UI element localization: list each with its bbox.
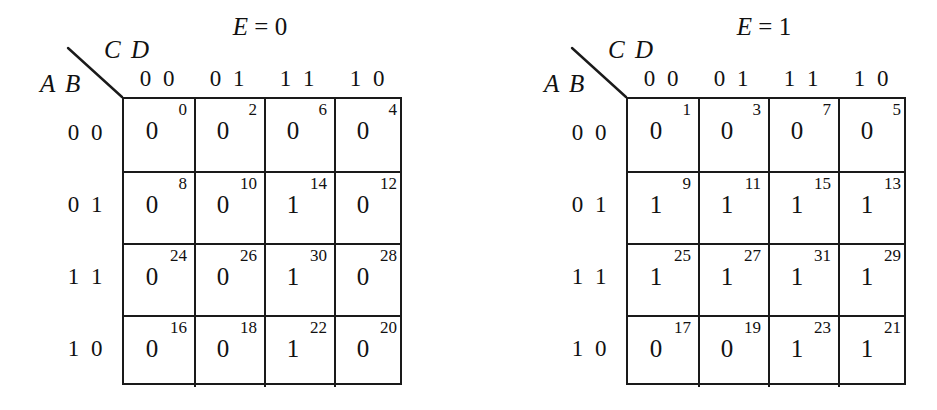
kmap-e1-grid-row-0: 1 0 3 0 7 0 5 0 [628,99,904,171]
kmap-e1-cell-15[interactable]: 15 1 [768,173,838,243]
kmap-e0-cell-30-index: 30 [310,246,327,266]
kmap-e1-cell-23[interactable]: 23 1 [768,317,838,387]
kmap-e1-cell-17-value: 0 [628,336,698,361]
kmap-e0-cell-10-value: 0 [196,192,264,217]
kmap-e0-cell-26-value: 0 [196,264,264,289]
kmap-e0-cell-14-index: 14 [310,174,327,194]
kmap-e0-grid-row-1: 8 0 10 0 14 1 12 0 [124,171,400,243]
kmap-e0-grid-row-3: 16 0 18 0 22 1 20 0 [124,315,400,387]
kmap-e0-cell-28[interactable]: 28 0 [334,245,404,315]
kmap-e1-cell-27-value: 1 [700,264,768,289]
kmap-e0-cell-24[interactable]: 24 0 [124,245,194,315]
kmap-e1-cell-7[interactable]: 7 0 [768,99,838,171]
kmap-e1-cell-23-index: 23 [814,318,831,338]
kmap-e1-grid-row-3: 17 0 19 0 23 1 21 1 [628,315,904,387]
kmap-e1-cell-9-value: 1 [628,192,698,217]
kmap-e0-cell-2[interactable]: 2 0 [194,99,264,171]
kmap-e0-cell-6-index: 6 [319,100,328,120]
kmap-e0-cell-10-index: 10 [240,174,257,194]
kmap-e0-cell-0-index: 0 [179,100,188,120]
kmap-e1-col-header-3: 1 0 [836,66,906,92]
kmap-e1-cell-7-index: 7 [823,100,832,120]
kmap-e1-cell-13[interactable]: 13 1 [838,173,908,243]
kmap-e1-cell-15-index: 15 [814,174,831,194]
kmap-e1-cell-29-value: 1 [840,264,908,289]
kmap-e0-cell-6[interactable]: 6 0 [264,99,334,171]
kmap-e1-cell-13-value: 1 [840,192,908,217]
kmap-e1-cell-21[interactable]: 21 1 [838,317,908,387]
kmap-e0-cell-16[interactable]: 16 0 [124,317,194,387]
kmap-e0-cell-14[interactable]: 14 1 [264,173,334,243]
kmap-e0-cell-18[interactable]: 18 0 [194,317,264,387]
kmap-e0-title-rest: = 0 [248,13,287,40]
kmap-e0-column-headers: 0 0 0 1 1 1 1 0 [122,66,402,96]
kmap-e1-grid-row-1: 9 1 11 1 15 1 13 1 [628,171,904,243]
kmap-e1-cell-25[interactable]: 25 1 [628,245,698,315]
kmap-e0-cell-20[interactable]: 20 0 [334,317,404,387]
kmap-e0-cell-4[interactable]: 4 0 [334,99,404,171]
kmap-e0-cell-18-index: 18 [240,318,257,338]
kmap-e0-cell-2-index: 2 [249,100,258,120]
kmap-e1-cell-1-value: 0 [628,118,698,143]
kmap-e0-cell-16-value: 0 [124,336,194,361]
kmap-e1-grid-row-2: 25 1 27 1 31 1 29 1 [628,243,904,315]
kmap-e0-cell-24-value: 0 [124,264,194,289]
kmap-e1-cell-31[interactable]: 31 1 [768,245,838,315]
kmap-e0-row-header-2: 1 1 [52,241,118,313]
kmap-e1-cell-23-value: 1 [770,336,838,361]
kmap-e0-cell-30[interactable]: 30 1 [264,245,334,315]
kmap-e1-cell-15-value: 1 [770,192,838,217]
kmap-e1-row-headers: 0 0 0 1 1 1 1 0 [556,97,622,385]
kmap-e1-cell-3-index: 3 [753,100,762,120]
kmap-e0-cell-20-index: 20 [380,318,397,338]
kmap-e0-cell-12[interactable]: 12 0 [334,173,404,243]
kmap-e1-title-rest: = 1 [752,13,791,40]
kmap-e1-column-headers: 0 0 0 1 1 1 1 0 [626,66,906,96]
kmap-e0-cell-10[interactable]: 10 0 [194,173,264,243]
kmap-e0-cell-30-value: 1 [266,264,334,289]
kmap-e1-cell-7-value: 0 [770,118,838,143]
kmap-e1-cell-27[interactable]: 27 1 [698,245,768,315]
kmap-e1-cell-3[interactable]: 3 0 [698,99,768,171]
kmap-e0-title-var: E [233,13,248,40]
kmap-e1-cell-17-index: 17 [674,318,691,338]
kmap-e0-row-header-1: 0 1 [52,169,118,241]
kmap-e0-cell-6-value: 0 [266,118,334,143]
kmap-e1-col-header-2: 1 1 [766,66,836,92]
kmap-e0-cell-22[interactable]: 22 1 [264,317,334,387]
kmap-e0-col-header-3: 1 0 [332,66,402,92]
kmap-e0-cell-28-index: 28 [380,246,397,266]
kmap-e1-cell-25-value: 1 [628,264,698,289]
kmap-e0-cell-0-value: 0 [124,118,194,143]
kmap-e1-cell-27-index: 27 [744,246,761,266]
kmap-e1-row-header-2: 1 1 [556,241,622,313]
kmap-e0: E = 0 C D A B 0 0 0 1 1 1 1 0 0 0 0 1 1 … [30,0,450,410]
kmap-e0-row-header-0: 0 0 [52,97,118,169]
kmap-e1-cell-17[interactable]: 17 0 [628,317,698,387]
kmap-e0-col-header-0: 0 0 [122,66,192,92]
kmap-e0-col-header-1: 0 1 [192,66,262,92]
kmap-e1-cell-5-index: 5 [893,100,902,120]
kmap-e1-cell-31-index: 31 [814,246,831,266]
kmap-e1-grid: 1 0 3 0 7 0 5 0 9 1 [626,97,906,385]
kmap-e1-cell-5[interactable]: 5 0 [838,99,908,171]
kmap-e1-cell-11-index: 11 [745,174,761,194]
kmap-e0-cell-2-value: 0 [196,118,264,143]
kmap-e1-cell-29-index: 29 [884,246,901,266]
kmap-e1-cell-29[interactable]: 29 1 [838,245,908,315]
kmap-e1-cell-9[interactable]: 9 1 [628,173,698,243]
kmap-e0-grid-row-0: 0 0 2 0 6 0 4 0 [124,99,400,171]
kmap-e1-cell-1[interactable]: 1 0 [628,99,698,171]
kmap-e1-row-header-3: 1 0 [556,313,622,385]
kmap-e0-cell-26[interactable]: 26 0 [194,245,264,315]
kmap-e0-cell-4-value: 0 [336,118,404,143]
kmap-e1-cell-19[interactable]: 19 0 [698,317,768,387]
kmap-e1-cell-19-index: 19 [744,318,761,338]
kmap-e0-cell-8-value: 0 [124,192,194,217]
kmap-e0-cell-18-value: 0 [196,336,264,361]
kmap-e0-grid: 0 0 2 0 6 0 4 0 8 0 [122,97,402,385]
kmap-e0-cell-8[interactable]: 8 0 [124,173,194,243]
kmap-e0-cell-0[interactable]: 0 0 [124,99,194,171]
kmap-e1-cell-13-index: 13 [884,174,901,194]
kmap-e1-cell-11[interactable]: 11 1 [698,173,768,243]
